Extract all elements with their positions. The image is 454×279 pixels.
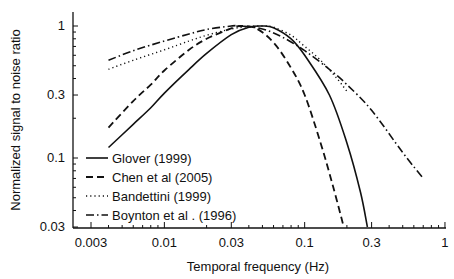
x-tick-label: 0.1 <box>296 235 314 250</box>
x-tick-label: 0.01 <box>152 235 177 250</box>
x-axis-title: Temporal frequency (Hz) <box>187 259 329 274</box>
y-tick-label: 0.3 <box>47 87 65 102</box>
y-tick-label: 0.1 <box>47 150 65 165</box>
legend-label: Boynton et al . (1996) <box>112 208 236 223</box>
legend-label: Chen et al (2005) <box>112 170 212 185</box>
series-line-2 <box>109 26 347 91</box>
x-tick-label: 0.3 <box>363 235 381 250</box>
x-tick-label: 1 <box>441 235 448 250</box>
axes: 0.030.10.31 0.0030.010.030.10.31 <box>40 12 449 250</box>
y-ticks: 0.030.10.31 <box>40 18 78 234</box>
x-tick-label: 0.03 <box>219 235 244 250</box>
legend-label: Glover (1999) <box>112 151 191 166</box>
y-axis-title: Normalized signal to noise ratio <box>8 29 23 210</box>
legend-label: Bandettini (1999) <box>112 189 211 204</box>
x-tick-label: 0.003 <box>75 235 108 250</box>
legend: Glover (1999)Chen et al (2005)Bandettini… <box>86 151 236 223</box>
y-tick-label: 1 <box>58 18 65 33</box>
snr-frequency-chart: 0.030.10.31 0.0030.010.030.10.31 Tempora… <box>0 0 454 279</box>
x-ticks: 0.0030.010.030.10.31 <box>75 222 449 250</box>
y-tick-label: 0.03 <box>40 219 65 234</box>
